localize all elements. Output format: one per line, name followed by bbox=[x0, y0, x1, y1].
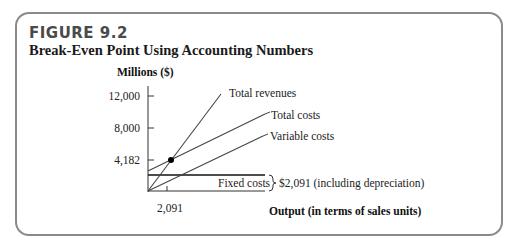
y-axis-label: Millions ($) bbox=[117, 66, 174, 79]
total-costs-label: Total costs bbox=[271, 109, 321, 121]
fixed-costs-label: Fixed costs bbox=[218, 177, 271, 189]
y-tick-label-4182: 4,182 bbox=[114, 154, 140, 167]
x-tick-label-2091: 2,091 bbox=[157, 202, 183, 215]
break-even-point bbox=[168, 157, 174, 163]
total-costs-leader bbox=[265, 112, 270, 114]
y-tick-label-8000: 8,000 bbox=[114, 122, 140, 135]
x-axis-label: Output (in terms of sales units) bbox=[269, 205, 422, 218]
total-revenues-line bbox=[148, 94, 221, 191]
fixed-costs-note: $2,091 (including depreciation) bbox=[279, 177, 424, 190]
variable-costs-label: Variable costs bbox=[270, 130, 335, 142]
variable-costs-leader bbox=[263, 134, 268, 136]
break-even-chart: Millions ($) 12,000 8,000 4,182 2,091 Ou… bbox=[0, 0, 518, 252]
y-tick-label-12000: 12,000 bbox=[108, 90, 140, 103]
total-revenues-label: Total revenues bbox=[229, 87, 297, 99]
